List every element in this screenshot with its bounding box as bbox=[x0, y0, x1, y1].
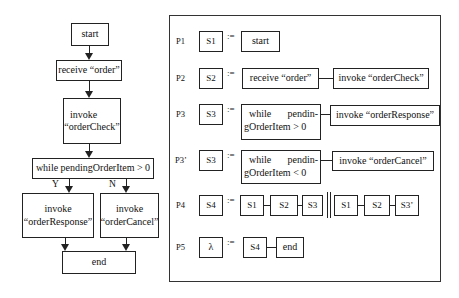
arrow-down-icon bbox=[65, 186, 73, 193]
assign-symbol: := bbox=[227, 150, 235, 160]
terminal-label: invoke “orderCancel” bbox=[339, 155, 426, 168]
while-keyword: while bbox=[249, 107, 271, 120]
sequence-item: S2 bbox=[364, 195, 390, 216]
assign-symbol: := bbox=[227, 195, 235, 205]
terminal-label: invoke “orderResponse” bbox=[336, 109, 434, 122]
sequence-item: S3 bbox=[302, 195, 323, 216]
invoke-cancel-node: invoke “orderCancel” bbox=[100, 193, 159, 238]
sequence-item: S4 bbox=[243, 237, 267, 258]
sequence-label: S1 bbox=[341, 200, 351, 211]
end-node: end bbox=[62, 251, 136, 274]
nonterminal-box: S4 bbox=[199, 195, 223, 216]
alternation-bar bbox=[327, 192, 328, 218]
invoke-label: invoke bbox=[64, 109, 97, 122]
nonterminal-label: S1 bbox=[206, 36, 216, 47]
terminal-box: end bbox=[276, 237, 304, 258]
nonterminal-box: S1 bbox=[199, 31, 223, 52]
sequence-item: S1 bbox=[334, 195, 358, 216]
terminal-label: end bbox=[283, 241, 297, 254]
nonterminal-label: S4 bbox=[206, 200, 216, 211]
terminal-box: receive “order” bbox=[242, 68, 319, 89]
rule-id: P5 bbox=[176, 242, 185, 252]
alternation-bar bbox=[330, 192, 331, 218]
sequence-label: S3 bbox=[308, 200, 318, 211]
sequence-item: S1 bbox=[240, 195, 264, 216]
arrow-down-icon bbox=[85, 53, 93, 60]
while-label: while pendingOrderItem > 0 bbox=[36, 162, 150, 175]
assign-symbol: := bbox=[227, 68, 235, 78]
service-label: “orderCancel” bbox=[101, 216, 159, 229]
terminal-box: invoke “orderCheck” bbox=[333, 68, 429, 89]
no-branch-label: N bbox=[109, 179, 116, 189]
connector bbox=[69, 179, 70, 186]
terminal-box: invoke “orderResponse” bbox=[330, 105, 440, 126]
terminal-label: receive “order” bbox=[250, 72, 311, 85]
assign-symbol: := bbox=[227, 104, 235, 114]
nonterminal-label: S3 bbox=[206, 109, 216, 120]
nonterminal-box: S3 bbox=[199, 104, 223, 125]
sequence-label: S2 bbox=[279, 200, 289, 211]
rule-id: P3’ bbox=[175, 155, 187, 165]
arrow-down-icon bbox=[85, 151, 93, 158]
terminal-box: invoke “orderCancel” bbox=[332, 151, 434, 171]
terminal-label: start bbox=[252, 35, 269, 48]
nonterminal-box: S3 bbox=[199, 150, 223, 171]
start-node: start bbox=[71, 23, 109, 46]
connector bbox=[321, 160, 332, 161]
terminal-label: invoke “orderCheck” bbox=[338, 72, 423, 85]
nonterminal-box: S2 bbox=[199, 68, 223, 89]
rule-id: P4 bbox=[176, 200, 185, 210]
invoke-label: invoke bbox=[116, 203, 143, 216]
while-node: while pendingOrderItem > 0 bbox=[32, 158, 154, 179]
sequence-item: S2 bbox=[270, 195, 298, 216]
terminal-box: start bbox=[241, 31, 280, 52]
sequence-item: S3’ bbox=[395, 195, 419, 216]
condition-part: gOrderItem < 0 bbox=[244, 166, 318, 179]
sequence-label: S1 bbox=[247, 200, 257, 211]
invoke-check-node: invoke “orderCheck” bbox=[63, 98, 121, 144]
end-label: end bbox=[92, 256, 106, 269]
nonterminal-label: λ bbox=[209, 241, 214, 254]
while-box: whilependin- gOrderItem < 0 bbox=[241, 150, 321, 184]
rule-id: P1 bbox=[176, 36, 185, 46]
connector bbox=[267, 247, 276, 248]
arrow-down-icon bbox=[61, 244, 69, 251]
start-label: start bbox=[81, 28, 98, 41]
invoke-label: invoke bbox=[44, 203, 71, 216]
service-label: “orderCheck” bbox=[64, 121, 120, 134]
connector bbox=[89, 46, 90, 53]
rule-id: P3 bbox=[176, 109, 185, 119]
condition-part: pendin- bbox=[287, 107, 318, 120]
arrow-down-icon bbox=[122, 186, 130, 193]
sequence-label: S2 bbox=[372, 200, 382, 211]
receive-node: receive “order” bbox=[56, 60, 122, 81]
condition-part: pendin- bbox=[287, 153, 318, 166]
assign-symbol: := bbox=[227, 31, 235, 41]
nonterminal-box: λ bbox=[199, 237, 223, 258]
receive-label: receive “order” bbox=[58, 64, 119, 77]
assign-symbol: := bbox=[227, 237, 235, 247]
nonterminal-label: S3 bbox=[206, 155, 216, 166]
sequence-label: S4 bbox=[250, 242, 260, 253]
connector bbox=[126, 179, 127, 186]
arrow-down-icon bbox=[122, 244, 130, 251]
service-label: “orderResponse” bbox=[24, 216, 92, 229]
nonterminal-label: S2 bbox=[206, 73, 216, 84]
sequence-label: S3’ bbox=[401, 200, 414, 211]
arrow-down-icon bbox=[85, 91, 93, 98]
connector bbox=[89, 144, 90, 151]
connector bbox=[321, 114, 330, 115]
condition-part: gOrderItem > 0 bbox=[244, 120, 318, 133]
connector bbox=[89, 81, 90, 91]
yes-branch-label: Y bbox=[52, 179, 59, 189]
while-keyword: while bbox=[249, 153, 271, 166]
rule-id: P2 bbox=[176, 73, 185, 83]
invoke-response-node: invoke “orderResponse” bbox=[22, 193, 94, 238]
connector bbox=[319, 78, 333, 79]
while-box: whilependin- gOrderItem > 0 bbox=[241, 104, 321, 140]
